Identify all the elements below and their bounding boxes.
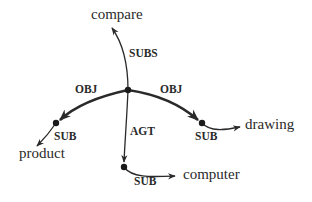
semantic-network-diagram <box>0 0 312 202</box>
bottom-node <box>121 164 127 170</box>
left-node <box>53 120 59 126</box>
edge-label-obj-right: OBJ <box>160 84 182 96</box>
edge-label-sub-product: SUB <box>54 131 76 143</box>
edge-label-obj-left: OBJ <box>75 84 97 96</box>
node-label-product: product <box>19 146 65 161</box>
node-label-drawing: drawing <box>245 117 294 132</box>
edge-sub-drawing <box>202 123 240 130</box>
center-node <box>125 87 131 93</box>
right-node <box>199 120 205 126</box>
edge-label-agt: AGT <box>130 126 155 138</box>
edge-label-subs: SUBS <box>129 48 158 60</box>
node-label-computer: computer <box>183 167 240 182</box>
node-label-compare: compare <box>91 7 143 22</box>
edge-label-sub-computer: SUB <box>134 176 156 188</box>
edge-label-sub-drawing: SUB <box>195 131 217 143</box>
edge-subs <box>112 28 128 90</box>
edge-agt <box>124 90 128 162</box>
